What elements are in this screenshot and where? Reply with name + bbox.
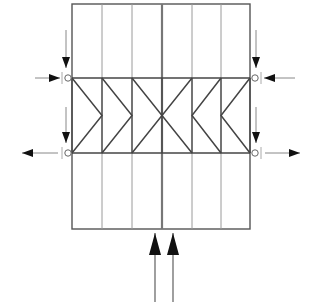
left-bottom-outward-arrow-icon	[22, 149, 58, 157]
left-top-down-arrow-icon	[62, 30, 70, 68]
arrow-head	[289, 149, 300, 157]
diagram-canvas	[0, 0, 311, 308]
bottom-left-up-arrow-icon	[149, 233, 161, 302]
left-top-inward-arrow-icon	[35, 74, 60, 82]
k-diagonal-left	[72, 78, 102, 153]
right-bottom-down-arrow-icon	[252, 107, 260, 143]
arrow-head	[252, 57, 260, 68]
arrow-head	[149, 233, 161, 255]
k-diagonal-left	[102, 78, 132, 153]
right-top-inward-arrow-icon	[264, 74, 295, 82]
truss-diagram	[0, 0, 311, 308]
left-top-pin-icon	[65, 75, 71, 81]
arrow-head	[62, 57, 70, 68]
k-diagonal-right	[221, 78, 250, 153]
arrow-head	[264, 74, 275, 82]
right-top-pin-icon	[252, 75, 258, 81]
k-diagonal-right	[162, 78, 192, 153]
arrow-head	[167, 233, 179, 255]
left-bottom-down-arrow-icon	[62, 107, 70, 143]
right-top-down-arrow-icon	[252, 30, 260, 68]
left-bottom-pin-icon	[65, 150, 71, 156]
k-diagonal-left	[132, 78, 162, 153]
right-bottom-pin-icon	[252, 150, 258, 156]
k-diagonal-right	[192, 78, 221, 153]
bottom-right-up-arrow-icon	[167, 233, 179, 302]
arrow-head	[22, 149, 33, 157]
arrow-head	[252, 132, 260, 143]
arrow-head	[62, 132, 70, 143]
arrow-head	[49, 74, 60, 82]
right-bottom-outward-arrow-icon	[265, 149, 300, 157]
